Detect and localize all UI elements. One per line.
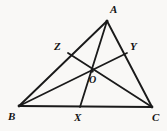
geometry-figure: A B C X Y Z O xyxy=(0,0,167,131)
vertex-label-A: A xyxy=(110,4,117,15)
point-label-O: O xyxy=(89,75,96,85)
point-label-Z: Z xyxy=(54,41,61,52)
side-CA xyxy=(107,21,152,107)
side-BC xyxy=(19,106,152,107)
vertex-label-B: B xyxy=(8,111,15,122)
point-B-marker xyxy=(18,105,21,108)
vertex-label-C: C xyxy=(152,112,159,123)
point-label-X: X xyxy=(74,112,81,123)
point-C-marker xyxy=(151,106,154,109)
point-A-marker xyxy=(106,20,109,23)
point-O-marker xyxy=(90,69,94,73)
triangle-diagram-svg xyxy=(0,0,167,131)
point-label-Y: Y xyxy=(130,41,137,52)
